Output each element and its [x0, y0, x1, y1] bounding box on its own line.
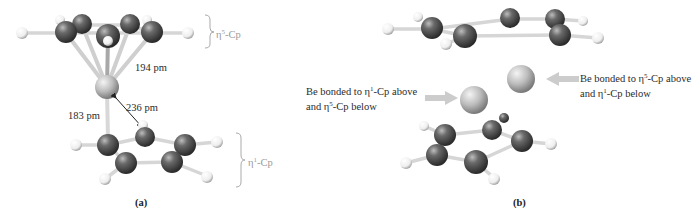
carbon-atom [511, 130, 533, 152]
hydrogen-atom [211, 136, 223, 148]
carbon-atom [55, 21, 77, 43]
carbon-atom [97, 134, 119, 156]
carbon-atom [161, 151, 183, 173]
eta5-bracket [205, 15, 214, 48]
right-note-line2: and η1-Cp below [580, 85, 691, 100]
hydrogen-atom [382, 23, 394, 35]
hydrogen-atom [16, 27, 28, 39]
hydrogen-atom-behind [499, 113, 509, 123]
hydrogen-atom [419, 121, 429, 131]
carbon-atom [500, 8, 520, 28]
carbon-atom [421, 17, 443, 39]
hydrogen-atom [545, 138, 557, 150]
carbon-atom [549, 24, 571, 46]
hydrogen-atom [592, 32, 604, 44]
distance-236-label: 236 pm [126, 102, 158, 114]
hydrogen-atom [400, 157, 412, 169]
hydrogen-atom [103, 36, 113, 46]
hydrogen-atom [488, 173, 500, 185]
left-note-line1: Be bonded to η1-Cp above [306, 83, 417, 98]
right-note: Be bonded to η5-Cp above and η1-Cp below [580, 70, 691, 100]
hydrogen-atom [70, 139, 82, 151]
beryllium-atom [95, 75, 119, 99]
panel-a-structure [16, 14, 245, 187]
carbon-atom [426, 144, 448, 166]
hydrogen-atom [99, 173, 111, 185]
carbon-atom [464, 150, 488, 174]
left-note: Be bonded to η1-Cp above and η5-Cp below [306, 83, 417, 113]
eta5-cp-label: η5-Cp [216, 26, 241, 41]
left-note-line2: and η5-Cp below [306, 98, 417, 113]
eta1-cp-label: η1-Cp [248, 154, 273, 169]
carbon-atom [141, 21, 163, 43]
hydrogen-atom [201, 171, 213, 183]
hydrogen-atom [440, 38, 452, 50]
carbon-atom [120, 14, 140, 34]
panel-a-label: (a) [135, 197, 147, 208]
hydrogen-atom [413, 12, 423, 22]
carbon-atom [482, 120, 502, 140]
carbon-atom [115, 152, 137, 174]
left-arrow-head [546, 72, 559, 86]
distance-183-label: 183 pm [68, 110, 100, 122]
right-arrow-head [445, 91, 458, 105]
panel-b-label: (b) [513, 197, 526, 208]
hydrogen-atom [182, 27, 194, 39]
left-arrow-shaft [557, 76, 579, 82]
beryllium-atom-upper [507, 65, 535, 93]
beryllium-atom-lower [460, 86, 488, 114]
carbon-atom [135, 127, 155, 147]
carbon-atom [434, 124, 456, 146]
pointer-arrows [425, 72, 579, 105]
right-note-line1: Be bonded to η5-Cp above [580, 70, 691, 85]
eta1-bracket [236, 133, 245, 187]
right-arrow-shaft [425, 95, 447, 101]
distance-194-label: 194 pm [135, 62, 167, 74]
hydrogen-atom [578, 16, 588, 26]
carbon-atom [453, 24, 477, 48]
